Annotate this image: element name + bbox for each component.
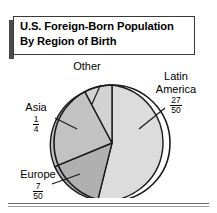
pie-value-europe-numerator: 7 [33, 182, 42, 192]
pie-label-europe: Europe 7 50 [10, 168, 66, 201]
pie-label-latin-america-name-line2: America [143, 83, 209, 96]
pie-label-asia-name: Asia [12, 101, 60, 114]
pie-label-latin-america: Latin America 27 50 [143, 70, 209, 116]
pie-value-latin-america: 27 50 [170, 96, 181, 115]
pie-value-europe: 7 50 [33, 182, 42, 201]
bottom-divider [8, 203, 209, 204]
pie-label-other: Other [58, 60, 116, 73]
page-title-line-2: By Region of Birth [20, 34, 195, 49]
pie-value-latin-america-denominator: 50 [170, 106, 181, 115]
page-title: U.S. Foreign-Born Population By Region o… [20, 19, 195, 49]
bottom-divider-secondary [8, 206, 209, 207]
pie-value-asia-numerator: 1 [33, 115, 40, 125]
page-title-line-1: U.S. Foreign-Born Population [20, 19, 195, 34]
pie-label-asia: Asia 1 4 [12, 101, 60, 134]
pie-label-other-name: Other [58, 60, 116, 73]
pie-label-europe-name: Europe [10, 168, 66, 181]
pie-chart: Other Latin America 27 50 Asia 1 4 Europ… [0, 56, 217, 198]
pie-label-latin-america-name-line1: Latin [143, 70, 209, 83]
pie-value-europe-denominator: 50 [33, 192, 42, 201]
pie-value-asia: 1 4 [33, 115, 40, 134]
pie-value-asia-denominator: 4 [33, 125, 40, 134]
